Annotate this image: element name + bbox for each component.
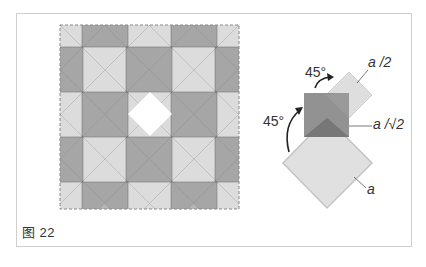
figure-canvas <box>0 0 426 267</box>
rotation-label-lower: 45° <box>263 113 284 129</box>
construction-diagram <box>283 70 372 208</box>
label-large-square: a <box>367 181 375 197</box>
label-middle-square: a /√2 <box>373 116 404 132</box>
rotation-label-upper: 45° <box>305 64 326 80</box>
figure-caption: 图 22 <box>22 222 55 241</box>
rotation-arrow-lower <box>287 110 300 152</box>
label-small-square: a /2 <box>368 54 391 70</box>
